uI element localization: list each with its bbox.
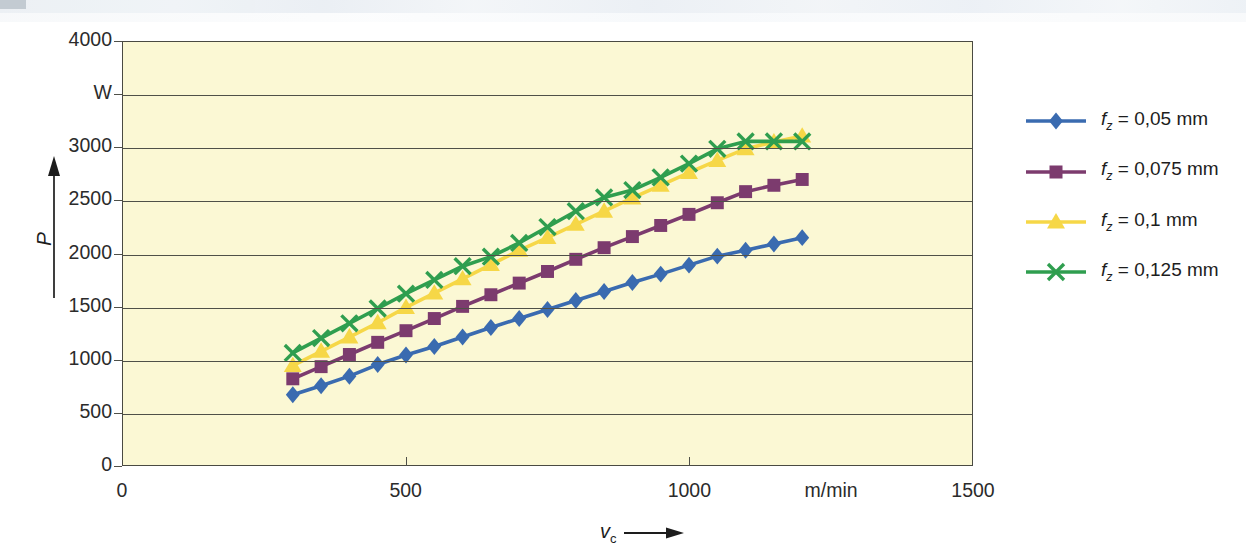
series-marker [342,368,356,385]
series-marker [796,173,809,186]
series-layer [123,42,972,465]
series-marker [682,257,696,274]
series-marker [711,196,724,209]
legend-item[interactable]: fz = 0,125 mm [1025,259,1219,284]
x-tick-label: 0 [72,479,172,502]
x-axis-label-text: v [600,520,610,542]
y-tick-mark [114,94,122,95]
series-line [293,141,802,353]
series-marker [541,301,555,318]
series-marker [739,185,752,198]
series-marker [484,288,497,301]
legend-item[interactable]: fz = 0,1 mm [1025,209,1219,234]
series-line [293,136,802,365]
series-marker [513,277,526,290]
series-marker [512,310,526,327]
series-marker [343,348,356,361]
series-marker [597,283,611,300]
series-marker [626,230,639,243]
x-tick-label: 1000 [639,479,739,502]
legend-marker-square-icon [1025,161,1087,181]
chart-figure: 0500100015002000250030004000W 0500100015… [0,0,1246,559]
series-marker [371,356,385,373]
y-axis-arrow-icon [30,150,70,300]
legend-marker-cross-icon [1025,261,1087,281]
y-tick-label: 500 [20,400,112,423]
x-tick-label: 1500 [923,479,1023,502]
series-marker [795,229,809,246]
x-axis-label: vc [600,520,617,546]
data-series [285,133,810,360]
y-tick-label: 4000 [20,28,112,51]
series-marker [371,336,384,349]
series-marker [654,219,667,232]
y-axis-label-group: P [30,150,70,300]
series-marker [654,266,668,283]
series-marker [625,274,639,291]
legend-marker-diamond-icon [1025,110,1087,130]
x-axis-label-subscript: c [610,531,617,546]
series-marker [427,338,441,355]
series-marker [739,242,753,259]
series-marker [484,319,498,336]
series-marker [315,360,328,373]
series-marker [767,179,780,192]
y-tick-mark [114,147,122,148]
x-axis-arrow-icon [624,526,686,540]
series-marker [767,236,781,253]
x-tick-label: m/min [781,479,881,502]
series-marker [541,265,554,278]
gridline [123,361,972,362]
legend-label: fz = 0,075 mm [1101,158,1219,183]
scan-artifact-band-lower [0,13,1246,22]
scan-artifact-band [0,0,1246,13]
y-tick-mark [114,360,122,361]
y-tick-label: 0 [20,453,112,476]
x-tick-label: 500 [356,479,456,502]
legend-label: fz = 0,1 mm [1101,209,1198,234]
y-tick-mark [114,254,122,255]
legend: fz = 0,05 mmfz = 0,075 mmfz = 0,1 mmfz =… [1025,108,1219,284]
y-tick-mark [114,307,122,308]
legend-marker-triangle-icon [1025,211,1087,231]
series-marker [456,300,469,313]
x-axis-label-group: vc [600,520,686,546]
series-marker [710,248,724,265]
series-marker [456,329,470,346]
series-marker [314,377,328,394]
data-series [286,173,808,385]
gridline [123,201,972,202]
y-tick-mark [114,200,122,201]
data-series [284,127,811,372]
series-line [293,179,802,378]
series-marker [286,372,299,385]
legend-item[interactable]: fz = 0,075 mm [1025,158,1219,183]
y-tick-mark [114,466,122,467]
series-marker [286,386,300,403]
gridline [123,148,972,149]
series-marker [683,208,696,221]
gridline [123,255,972,256]
y-tick-mark [114,413,122,414]
gridline [123,414,972,415]
plot-area [122,41,973,466]
series-marker [598,241,611,254]
series-marker [428,312,441,325]
y-tick-label: W [20,81,112,104]
y-axis-label: P [32,232,56,246]
y-tick-label: 1000 [20,347,112,370]
gridline [123,308,972,309]
gridline [123,95,972,96]
legend-item[interactable]: fz = 0,05 mm [1025,108,1219,133]
legend-label: fz = 0,125 mm [1101,259,1219,284]
legend-label: fz = 0,05 mm [1101,108,1208,133]
series-marker [569,292,583,309]
y-tick-mark [114,41,122,42]
series-marker [400,324,413,337]
